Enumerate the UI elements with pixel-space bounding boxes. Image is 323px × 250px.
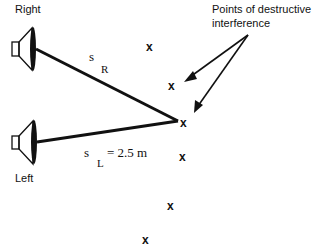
interference-mark: x xyxy=(167,200,174,212)
path-right xyxy=(36,49,178,121)
path-left xyxy=(37,121,178,142)
diagram-canvas xyxy=(0,0,323,250)
right-speaker-label: Right xyxy=(15,3,41,15)
interference-mark: x xyxy=(180,117,187,129)
annotation-line2: interference xyxy=(212,17,270,29)
s-right-subscript: R xyxy=(101,63,108,75)
s-left-subscript: L xyxy=(97,157,104,169)
annotation-line1: Points of destructive xyxy=(212,3,311,15)
s-left-symbol: s xyxy=(84,145,89,161)
right-speaker-icon xyxy=(12,27,36,71)
interference-mark: x xyxy=(179,151,186,163)
interference-mark: x xyxy=(142,234,149,246)
s-right-symbol: s xyxy=(89,49,94,65)
interference-mark: x xyxy=(168,80,175,92)
left-speaker-icon xyxy=(12,120,37,164)
left-speaker-label: Left xyxy=(15,172,33,184)
interference-mark: x xyxy=(146,41,153,53)
annotation-arrows xyxy=(184,35,248,113)
s-left-value: = 2.5 m xyxy=(107,145,147,161)
